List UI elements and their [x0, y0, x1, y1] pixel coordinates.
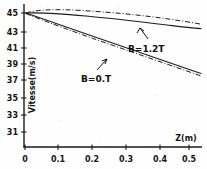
y-tick-label: 35 — [7, 94, 19, 103]
y-tick-label: 31 — [7, 128, 19, 137]
series-b0t-solid-curve — [26, 13, 201, 74]
x-tick-label: 0.5 — [182, 155, 197, 164]
annotation-b0t: B=0.T — [81, 74, 112, 84]
chart-figure: 45 43 41 39 37 35 33 31 0 0.1 0.2 0.3 0.… — [0, 0, 207, 169]
y-tick-labels: 45 43 41 39 37 35 33 31 — [7, 9, 19, 137]
leader-b12t — [140, 28, 148, 39]
x-tick-label: 0.2 — [85, 155, 99, 164]
y-tick-label: 45 — [7, 9, 19, 18]
x-tick-labels: 0 0.1 0.2 0.3 0.4 0.5 — [22, 155, 196, 164]
x-tick-label: 0 — [22, 155, 28, 164]
x-tick-label: 0.4 — [153, 155, 168, 164]
y-tick-label: 41 — [7, 44, 19, 53]
plot-canvas: 45 43 41 39 37 35 33 31 0 0.1 0.2 0.3 0.… — [0, 0, 207, 169]
y-axis-title: Vitesse(m/s) — [28, 57, 37, 113]
y-tick-label: 33 — [7, 111, 18, 120]
y-tick-label: 37 — [7, 76, 18, 85]
x-tick-label: 0.3 — [119, 155, 133, 164]
series-b12t — [26, 10, 201, 29]
series-b0t-dashdot-curve — [26, 14, 201, 76]
y-tick-label: 39 — [7, 60, 19, 69]
series-b12t-solid-curve — [26, 13, 201, 29]
x-axis-title: Z(m) — [175, 134, 196, 143]
annotation-b12t: B=1.2T — [128, 44, 165, 54]
x-tick-label: 0.1 — [51, 155, 66, 164]
series-b0t — [26, 13, 201, 76]
y-tick-label: 43 — [7, 28, 18, 37]
